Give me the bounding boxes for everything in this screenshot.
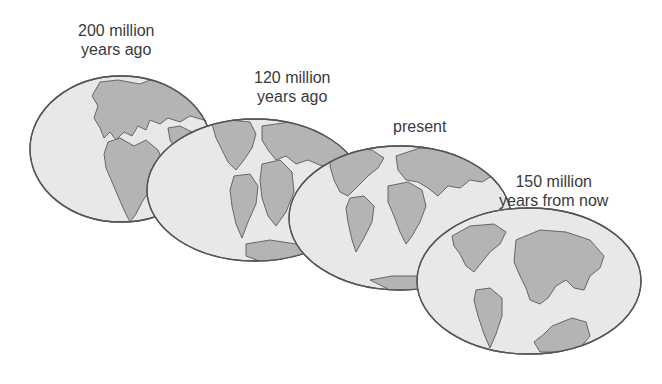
label-line: 200 million (78, 21, 154, 40)
label-200-million-years-ago: 200 million years ago (78, 21, 154, 59)
label-line: years ago (78, 40, 154, 59)
map-150-million-years-from-now (417, 208, 641, 354)
label-line: 120 million (254, 68, 330, 87)
label-present: present (393, 117, 446, 136)
label-line: present (393, 117, 446, 136)
label-line: years ago (254, 87, 330, 106)
label-150-million-years-from-now: 150 million years from now (499, 172, 608, 210)
label-120-million-years-ago: 120 million years ago (254, 68, 330, 106)
label-line: years from now (499, 191, 608, 210)
label-line: 150 million (499, 172, 608, 191)
